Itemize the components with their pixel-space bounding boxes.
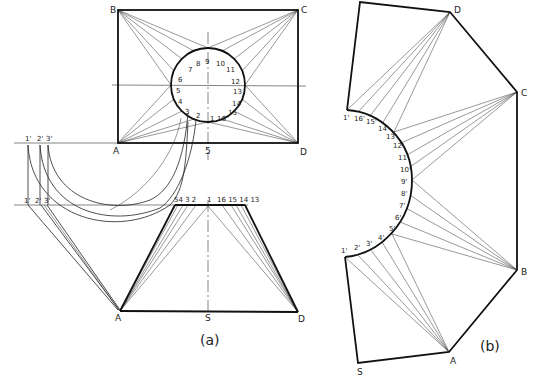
dev-label-A: A <box>450 356 457 366</box>
svg-text:6': 6' <box>395 214 401 222</box>
svg-text:13': 13' <box>386 133 397 141</box>
front-top-label-1: 1 <box>207 196 211 204</box>
svg-text:16: 16 <box>217 115 226 123</box>
svg-text:4': 4' <box>378 234 384 242</box>
svg-text:5': 5' <box>389 225 395 233</box>
svg-text:1: 1 <box>210 115 214 123</box>
svg-text:3': 3' <box>366 240 372 248</box>
svg-text:8': 8' <box>401 190 407 198</box>
dev-label-C: C <box>521 88 527 98</box>
svg-text:7': 7' <box>399 202 405 210</box>
development-arc-labels: 1' 16' 15' 14' 13' 12' 11' 10' 9' 8' 7' … <box>341 114 411 255</box>
horizontal-center-line <box>112 85 306 86</box>
svg-text:4: 4 <box>178 98 183 106</box>
front-label-D: D <box>298 314 305 324</box>
svg-text:16': 16' <box>354 115 365 123</box>
label-D: D <box>300 147 307 157</box>
front-view: 54 3 2 1 16 15 14 13 A S D (a) <box>115 196 305 348</box>
label-upper-2p: 2' <box>37 135 43 143</box>
label-upper-1p: 1' <box>25 135 31 143</box>
svg-text:12: 12 <box>231 78 240 86</box>
front-top-labels-right: 16 15 14 13 <box>217 196 259 204</box>
diagram-canvas: B C A D 5 1 2 3 4 5 6 7 8 9 10 11 12 13 … <box>0 0 535 379</box>
svg-text:2': 2' <box>354 244 360 252</box>
development-pattern: D C B A S 1' 16' 15' 14' 13' 12' 11' 10'… <box>341 2 527 377</box>
svg-text:6: 6 <box>178 76 183 84</box>
svg-text:13: 13 <box>233 88 242 96</box>
frustum-base-edge <box>120 311 298 312</box>
svg-text:12': 12' <box>393 142 404 150</box>
svg-text:11': 11' <box>398 154 409 162</box>
front-top-labels-left: 54 3 2 <box>174 196 196 204</box>
svg-text:14: 14 <box>232 100 241 108</box>
label-center-5: 5 <box>205 146 211 156</box>
transition-piece-development-drawing: B C A D 5 1 2 3 4 5 6 7 8 9 10 11 12 13 … <box>0 0 535 379</box>
label-lower-3p: 3' <box>44 197 50 205</box>
caption-b: (b) <box>480 338 500 354</box>
label-lower-2p: 2' <box>35 197 41 205</box>
label-A: A <box>113 146 120 156</box>
svg-text:10: 10 <box>216 60 225 68</box>
svg-text:14': 14' <box>378 125 389 133</box>
frustum-right-edge <box>245 205 298 312</box>
svg-text:9: 9 <box>205 58 209 66</box>
svg-text:7: 7 <box>188 66 192 74</box>
front-label-S: S <box>205 313 211 323</box>
svg-text:1': 1' <box>341 247 347 255</box>
label-upper-3p: 3' <box>46 135 52 143</box>
dev-label-B: B <box>521 267 527 277</box>
front-label-A: A <box>115 313 122 323</box>
label-lower-1p: 1' <box>24 197 30 205</box>
circle-point-labels: 1 2 3 4 5 6 7 8 9 10 11 12 13 14 15 16 <box>176 58 242 123</box>
svg-text:2: 2 <box>196 112 200 120</box>
caption-a: (a) <box>200 332 220 348</box>
svg-text:15: 15 <box>228 109 237 117</box>
svg-text:9': 9' <box>401 178 407 186</box>
dev-label-D: D <box>454 5 461 15</box>
svg-text:15': 15' <box>366 118 377 126</box>
dev-label-S: S <box>357 367 363 377</box>
label-C: C <box>301 5 307 15</box>
svg-text:11: 11 <box>226 66 235 74</box>
svg-text:10': 10' <box>400 166 411 174</box>
svg-text:5: 5 <box>176 87 180 95</box>
svg-text:1': 1' <box>343 114 349 122</box>
label-B: B <box>110 5 116 15</box>
development-outline <box>345 2 517 363</box>
top-view: B C A D 5 1 2 3 4 5 6 7 8 9 10 11 12 13 … <box>110 5 307 160</box>
svg-text:3: 3 <box>185 108 189 116</box>
svg-text:8: 8 <box>196 60 200 68</box>
